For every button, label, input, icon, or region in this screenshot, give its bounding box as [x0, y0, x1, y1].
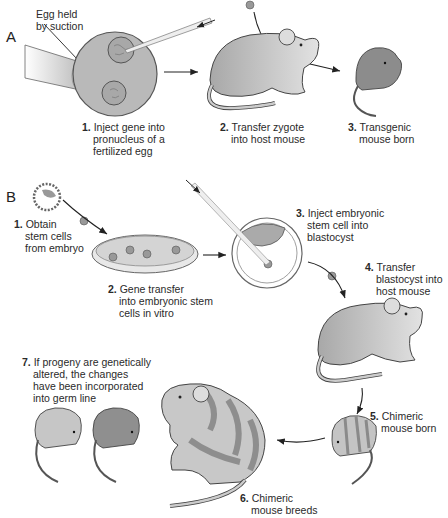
arrow-b3 — [308, 262, 345, 298]
blastocyst — [186, 180, 302, 288]
arrow-b5 — [277, 438, 325, 442]
panel-b-letter: B — [6, 188, 16, 205]
transgenic-mouse — [354, 48, 402, 116]
panel-a-letter: A — [6, 28, 16, 45]
step-b5-label: 5. Chimeric mouse born — [370, 410, 436, 434]
callout-egg-held: Egg held by suction — [36, 8, 83, 32]
transgenic-mouse-diagram — [0, 0, 448, 518]
arrow-b4 — [357, 388, 362, 414]
petri-dish — [92, 235, 198, 273]
step-b6-label: 6. Chimeric mouse breeds — [240, 492, 318, 516]
arrow-a2 — [310, 64, 340, 71]
step-b4-label: 4. Transfer blastocyst into host mouse — [365, 261, 443, 297]
step-b7-label: 7. If progeny are genetically altered, t… — [22, 356, 151, 404]
step-a1-label: 1. Inject gene into pronucleus of a fert… — [82, 121, 165, 157]
progeny-mouse-light — [35, 408, 81, 482]
chimeric-mouse-breeding — [162, 384, 265, 506]
host-mouse-a — [209, 1, 319, 108]
host-mouse-b — [318, 298, 423, 381]
progeny-mouse-dark — [93, 408, 139, 482]
step-a3-label: 3. Transgenic mouse born — [348, 121, 414, 145]
embryo — [34, 184, 60, 210]
step-a2-label: 2. Transfer zygote into host mouse — [220, 121, 305, 145]
step-b2-label: 2. Gene transfer into embryonic stem cel… — [108, 283, 213, 319]
step-b1-label: 1. Obtain stem cells from embryo — [14, 218, 84, 254]
step-b3-label: 3. Inject embryonic stem cell into blast… — [296, 207, 384, 243]
injection-needle — [125, 18, 215, 53]
